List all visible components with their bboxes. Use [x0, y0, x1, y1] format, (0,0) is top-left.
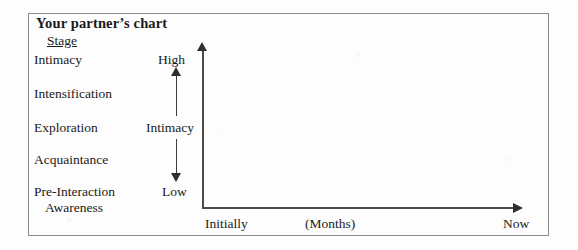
stage-label-pre-interaction-line1: Pre-Interaction: [34, 184, 115, 199]
x-axis-line: [202, 207, 515, 209]
page-title: Your partner’s chart: [36, 15, 167, 32]
x-axis-arrowhead-right-icon: [513, 203, 523, 213]
y-axis-high-label: High: [158, 52, 185, 68]
stage-column-header: Stage: [47, 33, 77, 49]
y-axis-title: Intimacy: [146, 120, 194, 136]
stage-label-intimacy: Intimacy: [34, 52, 82, 68]
x-axis-unit-label: (Months): [305, 216, 355, 232]
stage-label-pre-interaction-awareness: Pre-Interaction Awareness: [34, 184, 115, 216]
chart-worksheet-page: Your partner’s chart Stage Intimacy Inte…: [0, 0, 578, 250]
intimacy-scale-arrow-down-icon: [171, 173, 181, 182]
y-axis-line: [202, 50, 204, 208]
intimacy-scale-arrow-up-icon: [171, 67, 181, 76]
y-axis-arrowhead-up-icon: [197, 42, 207, 51]
stage-label-exploration: Exploration: [34, 120, 98, 136]
x-axis-end-label: Now: [503, 216, 529, 232]
intimacy-scale-down-arrow-shaft: [176, 139, 177, 174]
stage-label-acquaintance: Acquaintance: [34, 152, 108, 168]
intimacy-scale-up-arrow-shaft: [176, 75, 177, 116]
stage-label-intensification: Intensification: [34, 86, 112, 102]
y-axis-low-label: Low: [162, 184, 187, 200]
x-axis-start-label: Initially: [205, 216, 248, 232]
stage-label-pre-interaction-line2: Awareness: [34, 200, 115, 216]
